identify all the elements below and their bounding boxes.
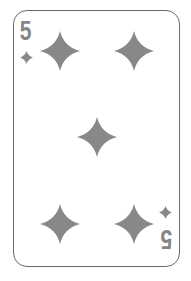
diamond-icon bbox=[20, 51, 33, 64]
rank-label: 5 bbox=[160, 226, 172, 252]
card-index-top-left: 5 bbox=[18, 18, 34, 64]
rank-label: 5 bbox=[20, 18, 32, 44]
diamond-icon bbox=[114, 204, 154, 244]
diamond-icon bbox=[40, 31, 80, 71]
diamond-icon bbox=[40, 204, 80, 244]
diamond-icon bbox=[77, 117, 117, 157]
diamond-icon bbox=[114, 31, 154, 71]
diamond-icon bbox=[160, 206, 173, 219]
card-index-bottom-right: 5 bbox=[158, 206, 174, 252]
